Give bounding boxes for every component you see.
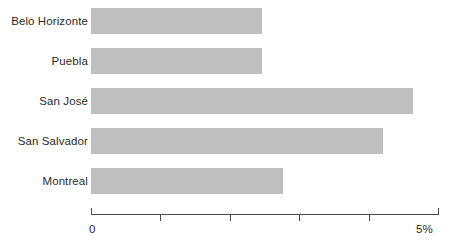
axis-cap-right [438,208,439,215]
bar-row: Belo Horizonte [0,8,468,34]
bar-category-label: San Salvador [18,128,88,154]
bar-category-label: Montreal [42,168,88,194]
axis-cap-left [91,208,92,215]
bar-row: Puebla [0,48,468,74]
bar-chart: Belo Horizonte Puebla San José San Salva… [0,0,468,247]
axis-tick [160,214,161,221]
bar-row: San José [0,88,468,114]
bar-category-label: Belo Horizonte [11,8,88,34]
bar-rect [91,168,283,194]
bar-category-label: San José [39,88,88,114]
bar-category-label: Puebla [52,48,88,74]
bar-row: Montreal [0,168,468,194]
axis-line [91,214,438,215]
axis-tick-label-max: 5% [416,223,433,235]
bar-rect [91,48,262,74]
bar-rect [91,8,262,34]
axis-tick [369,214,370,221]
axis-tick [230,214,231,221]
bar-rect [91,128,383,154]
bar-rect [91,88,413,114]
x-axis: 0 5% [0,206,468,247]
axis-tick-label-min: 0 [89,223,95,235]
bar-row: San Salvador [0,128,468,154]
axis-tick [299,214,300,221]
